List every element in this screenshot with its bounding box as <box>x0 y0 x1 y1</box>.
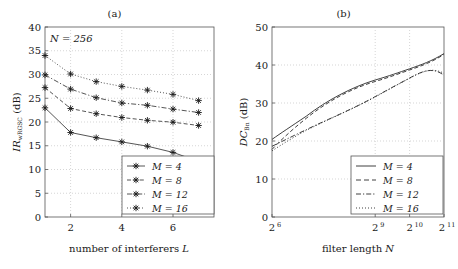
y-tick-label-b-2: 20 <box>255 136 268 147</box>
legend-b-label-2: M = 12 <box>382 189 419 200</box>
y-tick-label-a-2: 10 <box>28 164 41 175</box>
y-axis-title-a: IRwRGSC (dB) <box>11 92 23 152</box>
panel-b: (b) <box>229 0 458 269</box>
x-tick-label-a-1: 4 <box>119 222 125 233</box>
x-tick-label-b-3: 2 11 <box>439 221 455 233</box>
x-tick-label-a-2: 6 <box>170 222 176 233</box>
x-tick-b-2-base: 2 <box>406 222 412 233</box>
y-axis-title-a-main: IR <box>11 140 22 153</box>
svg-text:IRwRGSC (dB): IRwRGSC (dB) <box>11 92 23 152</box>
x-tick-b-3-base: 2 <box>439 222 445 233</box>
svg-text:2: 2 <box>439 222 445 233</box>
legend-b-label-0: M = 4 <box>382 161 413 172</box>
y-axis-title-b-main: DC <box>238 130 249 147</box>
x-axis-title-a: number of interferers L <box>69 243 189 254</box>
panel-a: (a) <box>0 0 229 269</box>
x-axis-title-b-text: filter length <box>322 243 385 254</box>
y-tick-label-a-6: 30 <box>28 69 41 80</box>
x-tick-b-1-exp: 9 <box>380 221 384 229</box>
legend-b[interactable]: M = 4 M = 8 M = 12 M = 16 <box>351 156 443 214</box>
y-axis-title-b-sub: Bn <box>243 122 250 130</box>
panel-a-plot: 0 5 10 15 20 25 30 35 40 2 4 6 N = 256 n… <box>0 0 229 269</box>
x-axis-title-b: filter length N <box>322 243 395 254</box>
x-tick-b-2-exp: 10 <box>415 221 423 229</box>
svg-text:2: 2 <box>269 222 275 233</box>
legend-a-label-0: M = 4 <box>151 161 182 172</box>
y-axis-title-a-sub: wRGSC <box>16 117 23 141</box>
y-tick-label-a-3: 15 <box>28 140 41 151</box>
y-tick-label-a-7: 35 <box>28 45 41 56</box>
y-axis-title-a-unit: (dB) <box>11 92 22 117</box>
y-tick-label-a-0: 0 <box>35 212 41 223</box>
x-tick-label-b-2: 2 10 <box>406 221 422 233</box>
x-tick-label-b-0: 2 6 <box>269 221 281 233</box>
legend-a-label-2: M = 12 <box>151 189 188 200</box>
y-tick-label-a-1: 5 <box>35 188 41 199</box>
legend-a[interactable]: M = 4 M = 8 M = 12 M = 16 <box>122 156 214 214</box>
annotation-n-value: N = 256 <box>49 33 93 44</box>
y-tick-label-a-8: 40 <box>28 22 41 33</box>
x-tick-b-1-base: 2 <box>372 222 378 233</box>
x-axis-title-b-symbol: N <box>384 243 395 254</box>
legend-a-label-3: M = 16 <box>151 203 188 214</box>
x-tick-label-a-0: 2 <box>67 222 73 233</box>
x-tick-b-3-exp: 11 <box>447 221 455 229</box>
figure-container: (a) <box>0 0 458 269</box>
x-tick-b-0-exp: 6 <box>277 221 281 229</box>
x-tick-b-0-base: 2 <box>269 222 275 233</box>
svg-text:2: 2 <box>372 222 378 233</box>
y-tick-label-b-0: 0 <box>262 212 268 223</box>
y-tick-label-b-5: 50 <box>255 22 268 33</box>
y-tick-label-b-1: 10 <box>255 174 268 185</box>
y-tick-label-b-3: 30 <box>255 98 268 109</box>
x-axis-title-a-symbol: L <box>181 243 189 254</box>
y-tick-label-b-4: 40 <box>255 60 268 71</box>
legend-b-label-3: M = 16 <box>382 203 419 214</box>
legend-a-label-1: M = 8 <box>151 175 182 186</box>
legend-b-label-1: M = 8 <box>382 175 413 186</box>
x-axis-title-a-text: number of interferers <box>69 243 182 254</box>
y-axis-title-b-unit: (dB) <box>238 98 249 123</box>
panel-b-plot: 0 10 20 30 40 50 2 6 2 9 2 10 2 11 <box>229 0 458 269</box>
svg-text:2: 2 <box>406 222 412 233</box>
svg-text:DCBn (dB): DCBn (dB) <box>238 98 250 148</box>
y-tick-label-a-4: 20 <box>28 117 41 128</box>
x-tick-label-b-1: 2 9 <box>372 221 384 233</box>
y-tick-label-a-5: 25 <box>28 93 41 104</box>
y-axis-title-b: DCBn (dB) <box>238 98 250 148</box>
